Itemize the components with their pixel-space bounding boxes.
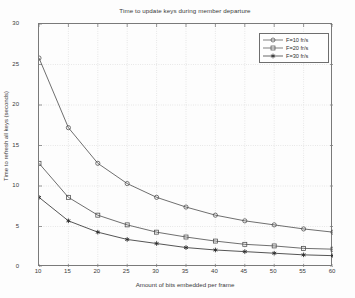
legend-label-2: F=30 fr/s <box>284 53 308 59</box>
legend-item-0: F=10 fr/s <box>262 36 326 44</box>
legend-item-1: F=20 fr/s <box>262 44 326 52</box>
chart-legend: F=10 fr/s F=20 fr/s F=30 fr/s <box>259 33 329 63</box>
legend-item-2: F=30 fr/s <box>262 52 326 60</box>
x-tick-label: 60 <box>322 268 342 274</box>
legend-marker-square-icon <box>262 44 284 52</box>
x-tick-label: 55 <box>293 268 313 274</box>
x-tick-label: 35 <box>175 268 195 274</box>
x-axis-label: Amount of bits embedded per frame <box>38 281 332 288</box>
chart-title: Time to update keys during member depart… <box>38 7 332 14</box>
x-tick-label: 45 <box>234 268 254 274</box>
x-tick-label: 15 <box>57 268 77 274</box>
y-tick-label: 20 <box>3 101 19 107</box>
y-tick-label: 0 <box>3 263 19 269</box>
x-tick-label: 50 <box>263 268 283 274</box>
y-tick-label: 10 <box>3 182 19 188</box>
x-tick-label: 10 <box>28 268 48 274</box>
x-tick-label: 30 <box>146 268 166 274</box>
legend-label-0: F=10 fr/s <box>284 37 308 43</box>
x-tick-label: 40 <box>204 268 224 274</box>
legend-marker-star-icon <box>262 52 284 60</box>
y-tick-label: 5 <box>3 222 19 228</box>
y-tick-label: 30 <box>3 20 19 26</box>
y-tick-label: 25 <box>3 60 19 66</box>
x-tick-label: 25 <box>116 268 136 274</box>
x-tick-label: 20 <box>87 268 107 274</box>
legend-marker-circle-icon <box>262 36 284 44</box>
chart-figure: Time to update keys during member depart… <box>0 0 355 298</box>
legend-label-1: F=20 fr/s <box>284 45 308 51</box>
y-tick-label: 15 <box>3 141 19 147</box>
